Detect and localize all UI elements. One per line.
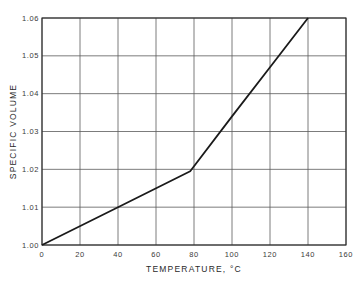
y-tick-label: 1.06 — [22, 14, 39, 23]
y-axis-tick-labels: 1.001.011.021.031.041.051.06 — [22, 14, 39, 250]
x-tick-label: 80 — [189, 250, 199, 259]
y-tick-label: 1.02 — [22, 165, 39, 174]
x-tick-label: 120 — [263, 250, 277, 259]
y-tick-label: 1.05 — [22, 51, 39, 60]
x-tick-label: 140 — [301, 250, 315, 259]
x-tick-label: 0 — [40, 250, 45, 259]
y-tick-label: 1.01 — [22, 203, 39, 212]
grid-lines — [42, 18, 346, 245]
x-tick-label: 60 — [151, 250, 161, 259]
x-axis-label: TEMPERATURE, °C — [146, 264, 242, 274]
specific-volume-chart: 020406080100120140160 1.001.011.021.031.… — [0, 0, 359, 281]
x-tick-label: 160 — [339, 250, 353, 259]
y-tick-label: 1.04 — [22, 89, 39, 98]
y-tick-label: 1.00 — [22, 241, 39, 250]
x-axis-tick-labels: 020406080100120140160 — [40, 250, 354, 259]
y-tick-label: 1.03 — [22, 127, 39, 136]
x-tick-label: 20 — [75, 250, 85, 259]
y-axis-label: SPECIFIC VOLUME — [8, 84, 18, 179]
x-tick-label: 100 — [225, 250, 239, 259]
x-tick-label: 40 — [113, 250, 123, 259]
